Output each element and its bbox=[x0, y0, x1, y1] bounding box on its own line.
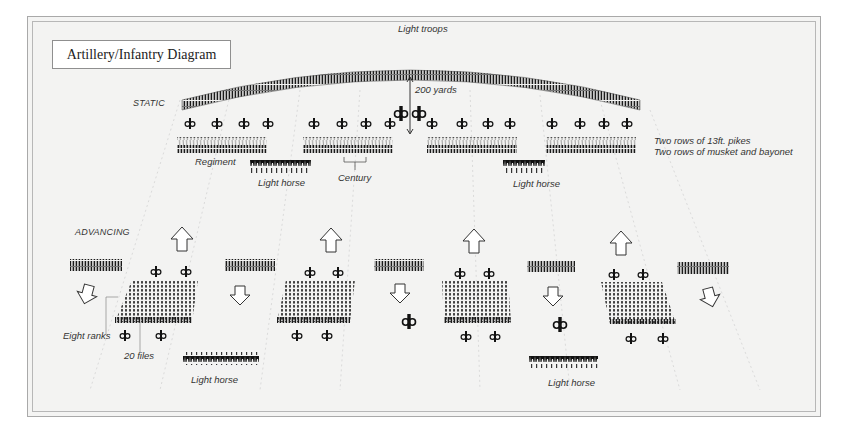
light-horse-label-adv-right: Light horse bbox=[548, 377, 595, 388]
retire-arrow-2 bbox=[230, 286, 250, 305]
light-horse-label-adv-left: Light horse bbox=[191, 374, 238, 385]
formation-note: Two rows of 13ft. pikes Two rows of musk… bbox=[654, 135, 793, 157]
retire-arrow-1 bbox=[75, 283, 99, 307]
advancing-block-3 bbox=[442, 280, 511, 323]
static-regiment-4 bbox=[546, 118, 636, 153]
eight-ranks-label: Eight ranks bbox=[63, 330, 111, 341]
central-cannon-left bbox=[395, 106, 408, 121]
advance-arrow-3 bbox=[463, 229, 485, 253]
static-label: STATIC bbox=[133, 98, 165, 108]
light-horse-label-static-right: Light horse bbox=[513, 178, 560, 189]
advance-arrow-1 bbox=[171, 227, 193, 251]
advancing-block-4 bbox=[601, 282, 676, 325]
advance-arrow-4 bbox=[610, 231, 632, 255]
advancing-block-2 bbox=[277, 280, 355, 323]
diagram-title: Artillery/Infantry Diagram bbox=[52, 40, 231, 69]
light-troops-line bbox=[182, 70, 640, 110]
advancing-block-1 bbox=[115, 280, 198, 323]
static-light-horse-right bbox=[503, 160, 545, 174]
advance-arrow-2 bbox=[320, 228, 342, 252]
advancing-light-horse-left bbox=[183, 352, 259, 365]
retire-arrow-5 bbox=[698, 286, 722, 310]
century-label: Century bbox=[338, 172, 371, 183]
skirmish-line-1 bbox=[70, 259, 122, 271]
skirmish-line-2 bbox=[225, 259, 275, 271]
advancing-light-horse-right bbox=[529, 355, 598, 368]
static-regiment-3 bbox=[427, 118, 517, 153]
note-line-muskets: Two rows of musket and bayonet bbox=[654, 146, 793, 157]
static-light-horse-left bbox=[250, 160, 311, 174]
century-bracket bbox=[344, 157, 366, 170]
light-horse-label-static-left: Light horse bbox=[258, 177, 305, 188]
light-troops-label: Light troops bbox=[398, 23, 448, 34]
retire-arrow-3 bbox=[390, 284, 410, 303]
static-regiment-2 bbox=[303, 118, 395, 153]
note-line-pikes: Two rows of 13ft. pikes bbox=[654, 135, 793, 146]
distance-label: 200 yards bbox=[415, 84, 457, 95]
skirmish-line-4 bbox=[527, 260, 575, 272]
static-regiment-1 bbox=[177, 118, 273, 153]
advancing-label: ADVANCING bbox=[75, 227, 130, 237]
twenty-files-label: 20 files bbox=[124, 350, 154, 361]
skirmish-line-5 bbox=[677, 262, 729, 274]
distance-arrow bbox=[407, 77, 413, 134]
advancing-cannons bbox=[120, 266, 668, 344]
skirmish-line-3 bbox=[374, 259, 424, 271]
central-cannon-right bbox=[413, 106, 426, 121]
regiment-label: Regiment bbox=[195, 156, 236, 167]
